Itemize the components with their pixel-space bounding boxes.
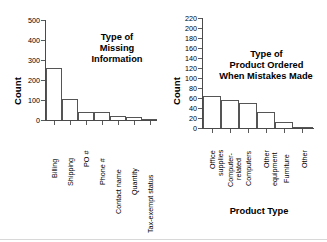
x-tick-mark	[302, 129, 303, 133]
x-tick-label-other: Other	[301, 150, 309, 168]
bar-contact-name	[110, 116, 126, 120]
x-tick-label-phone-number: Phone #	[99, 158, 107, 185]
chart-title-line-2: Missing	[76, 43, 158, 54]
x-axis-label-right: Product Type	[203, 206, 315, 216]
y-tick-label: 20	[175, 115, 197, 122]
y-tick-label: 80	[175, 85, 197, 92]
chart-title-line-3: When Mistakes Made	[205, 71, 327, 82]
bar-other	[293, 127, 313, 128]
chart-title-line-3: Information	[76, 54, 158, 65]
y-tick-label: 120	[175, 65, 197, 72]
y-tick-label: 100	[16, 97, 40, 104]
bar-quantity	[126, 117, 142, 120]
x-tick-label-office-supplies-line2: supplies	[217, 150, 225, 176]
x-tick-mark	[284, 129, 285, 133]
x-tick-mark	[54, 121, 55, 125]
x-tick-label-contact-name: Contact name	[115, 169, 123, 214]
x-tick-mark	[248, 129, 249, 133]
x-tick-label-quantity: Quantity	[131, 168, 139, 195]
y-tick-label: 200	[16, 77, 40, 84]
bottom-divider	[0, 239, 327, 240]
bar-billing	[46, 68, 62, 120]
y-tick-label: 0	[16, 117, 40, 124]
x-tick-mark	[150, 121, 151, 125]
x-tick-label-billing: Billing	[51, 159, 59, 178]
bar-po-number	[78, 112, 94, 120]
chart-title-line-2: Product Ordered	[209, 60, 324, 71]
x-tick-label-po-number: PO #	[83, 151, 91, 167]
x-tick-label-shipping: Shipping	[67, 158, 75, 186]
chart-panel-product-ordered: Count 220 200 180 160 140 120 100 80 60 …	[163, 0, 327, 242]
bar-shipping	[62, 99, 78, 120]
x-tick-mark	[102, 121, 103, 125]
bar-phone-number	[94, 112, 110, 120]
y-tick-label: 300	[16, 57, 40, 64]
x-tick-mark	[118, 121, 119, 125]
y-tick-label: 60	[175, 95, 197, 102]
y-tick-label: 0	[175, 125, 197, 132]
bar-furniture	[275, 122, 293, 129]
x-axis-line-left	[45, 120, 157, 121]
bar-computer-related	[221, 100, 239, 128]
x-tick-mark	[266, 129, 267, 133]
y-tick-label: 100	[175, 75, 197, 82]
x-tick-mark	[134, 121, 135, 125]
x-tick-mark	[70, 121, 71, 125]
y-tick-label: 400	[16, 37, 40, 44]
bar-computers	[239, 103, 257, 128]
x-tick-label-tax-exempt-status: Tax-exempt status	[147, 175, 155, 233]
x-tick-mark	[86, 121, 87, 125]
x-axis-line-right	[202, 128, 314, 129]
chart-title-line-1: Type of	[209, 49, 324, 60]
x-tick-mark	[230, 129, 231, 133]
x-tick-label-computers: Computers	[245, 151, 253, 186]
chart-panel-missing-information: Count 500 400 300 200 100 0	[0, 0, 163, 242]
y-tick-label: 40	[175, 105, 197, 112]
y-tick-label: 160	[175, 45, 197, 52]
y-tick-label: 140	[175, 55, 197, 62]
x-tick-label-computer-related-line2: related	[235, 158, 243, 180]
chart-title-line-1: Type of	[76, 32, 158, 43]
bar-other-equipment	[257, 112, 275, 128]
y-tick-label: 180	[175, 35, 197, 42]
x-tick-mark	[212, 129, 213, 133]
x-tick-label-furniture: Furniture	[283, 154, 291, 183]
bar-office-supplies	[203, 96, 221, 129]
y-tick-label: 500	[16, 17, 40, 24]
y-tick-label: 200	[175, 25, 197, 32]
y-tick-label: 220	[175, 15, 197, 22]
figure-canvas: Count 500 400 300 200 100 0	[0, 0, 327, 242]
x-tick-label-other-equipment-line2: equipment	[271, 152, 279, 186]
